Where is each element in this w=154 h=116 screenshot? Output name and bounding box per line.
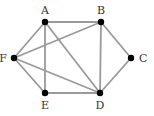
node-c xyxy=(128,55,134,61)
node-label-d: D xyxy=(96,99,105,112)
edge-a-f xyxy=(14,22,45,58)
edge-b-f xyxy=(14,22,101,58)
node-label-a: A xyxy=(40,4,50,17)
node-label-c: C xyxy=(139,52,147,65)
node-b xyxy=(98,19,104,25)
node-a xyxy=(42,19,48,25)
edges-group xyxy=(14,22,131,93)
graph-diagram: ABCDEF xyxy=(0,0,154,116)
node-d xyxy=(97,90,103,96)
node-label-b: B xyxy=(97,4,105,17)
node-label-f: F xyxy=(0,52,7,65)
node-e xyxy=(42,90,48,96)
edge-b-d xyxy=(100,22,101,93)
edge-b-c xyxy=(101,22,131,58)
node-label-e: E xyxy=(41,99,49,112)
edge-c-d xyxy=(100,58,131,93)
edge-f-e xyxy=(14,58,45,93)
node-f xyxy=(11,55,17,61)
